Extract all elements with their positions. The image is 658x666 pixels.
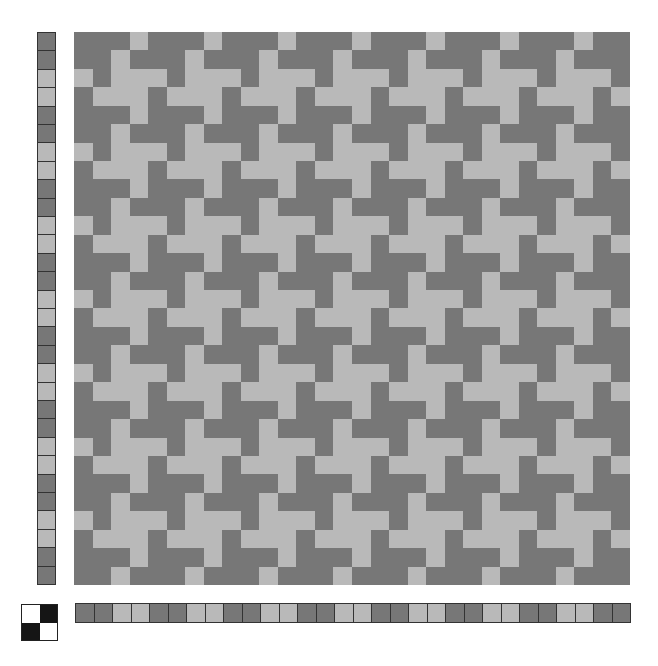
drawdown-cell [482, 548, 501, 566]
drawdown-cell [296, 106, 315, 124]
weft-thread-3 [38, 88, 55, 105]
drawdown-cell [296, 32, 315, 50]
drawdown-cell [408, 456, 427, 474]
drawdown-cell [74, 124, 93, 142]
drawdown-cell [148, 216, 167, 234]
drawdown-cell [408, 124, 427, 142]
drawdown-cell [482, 474, 501, 492]
tieup-cell [40, 605, 58, 623]
drawdown-cell [222, 87, 241, 105]
drawdown-cell [333, 290, 352, 308]
drawdown-cell [426, 474, 445, 492]
drawdown-cell [611, 456, 630, 474]
drawdown-cell [593, 106, 612, 124]
drawdown-cell [463, 32, 482, 50]
drawdown-cell [426, 253, 445, 271]
drawdown-cell [130, 511, 149, 529]
drawdown-cell [93, 272, 112, 290]
drawdown-cell [315, 32, 334, 50]
drawdown-cell [574, 235, 593, 253]
warp-thread-11 [280, 604, 298, 622]
drawdown-cell [574, 272, 593, 290]
drawdown-cell [593, 345, 612, 363]
drawdown-cell [167, 530, 186, 548]
drawdown-cell [333, 198, 352, 216]
drawdown-cell [556, 401, 575, 419]
drawdown-cell [315, 87, 334, 105]
drawdown-cell [241, 419, 260, 437]
drawdown-cell [333, 216, 352, 234]
drawdown-cell [371, 50, 390, 68]
drawdown-cell [574, 69, 593, 87]
drawdown-cell [500, 493, 519, 511]
drawdown-cell [426, 382, 445, 400]
drawdown-cell [574, 87, 593, 105]
drawdown-cell [296, 364, 315, 382]
drawdown-cell [482, 493, 501, 511]
drawdown-cell [408, 364, 427, 382]
drawdown-cell [593, 32, 612, 50]
warp-thread-25 [539, 604, 557, 622]
drawdown-cell [445, 143, 464, 161]
drawdown-cell [426, 548, 445, 566]
drawdown-cell [611, 161, 630, 179]
drawdown-cell [519, 511, 538, 529]
drawdown-cell [445, 511, 464, 529]
drawdown-cell [148, 235, 167, 253]
drawdown-cell [204, 474, 223, 492]
drawdown-cell [611, 567, 630, 585]
drawdown-cell [556, 456, 575, 474]
drawdown-cell [333, 382, 352, 400]
drawdown-cell [389, 124, 408, 142]
drawdown-cell [426, 161, 445, 179]
drawdown-cell [241, 179, 260, 197]
drawdown-cell [241, 567, 260, 585]
drawdown-cell [556, 198, 575, 216]
drawdown-cell [389, 327, 408, 345]
drawdown-cell [519, 253, 538, 271]
drawdown-cell [130, 216, 149, 234]
drawdown-cell [500, 308, 519, 326]
drawdown-cell [371, 511, 390, 529]
drawdown-cell [333, 161, 352, 179]
drawdown-cell [185, 253, 204, 271]
drawdown-cell [556, 419, 575, 437]
drawdown-cell [463, 548, 482, 566]
drawdown-cell [408, 345, 427, 363]
drawdown-cell [148, 493, 167, 511]
drawdown-cell [315, 253, 334, 271]
drawdown-cell [500, 567, 519, 585]
drawdown-cell [167, 382, 186, 400]
drawdown-cell [445, 308, 464, 326]
drawdown-cell [426, 530, 445, 548]
drawdown-cell [611, 216, 630, 234]
drawdown-cell [445, 419, 464, 437]
drawdown-cell [241, 253, 260, 271]
drawdown-cell [556, 50, 575, 68]
drawdown-cell [537, 567, 556, 585]
drawdown-cell [352, 382, 371, 400]
drawdown-cell [574, 530, 593, 548]
drawdown-cell [222, 548, 241, 566]
drawdown-cell [278, 124, 297, 142]
drawdown-cell [315, 345, 334, 363]
drawdown-cell [389, 69, 408, 87]
drawdown-cell [333, 253, 352, 271]
drawdown-cell [389, 438, 408, 456]
warp-thread-9 [243, 604, 261, 622]
drawdown-cell [74, 493, 93, 511]
drawdown-cell [593, 308, 612, 326]
drawdown-cell [556, 106, 575, 124]
drawdown-cell [463, 179, 482, 197]
drawdown-cell [148, 124, 167, 142]
drawdown-cell [93, 382, 112, 400]
drawdown-cell [222, 161, 241, 179]
drawdown-cell [130, 290, 149, 308]
drawdown-cell [296, 290, 315, 308]
drawdown-cell [130, 272, 149, 290]
drawdown-cell [389, 474, 408, 492]
drawdown-cell [222, 567, 241, 585]
drawdown-cell [408, 179, 427, 197]
drawdown-cell [574, 124, 593, 142]
drawdown-cell [111, 382, 130, 400]
